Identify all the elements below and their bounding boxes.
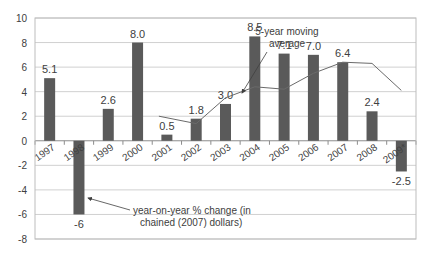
x-tick-label: 1997 <box>32 141 57 163</box>
chart: 1086420-2-4-6-8 5.1-62.68.00.51.83.08.57… <box>0 0 431 255</box>
annotation-arrow <box>88 198 130 210</box>
bar <box>220 104 231 141</box>
y-tick-label: 2 <box>21 111 27 122</box>
bar-value-label: 3.0 <box>218 89 233 101</box>
bar-value-label: -6 <box>74 218 84 230</box>
x-tick-label: 1999 <box>91 141 116 163</box>
bar-value-label: 1.8 <box>189 104 204 116</box>
y-tick-label: 6 <box>21 62 27 73</box>
y-tick-label: -4 <box>18 185 27 196</box>
bar <box>337 62 348 141</box>
x-tick-label: 2006 <box>296 141 321 163</box>
x-tick-label: 2008 <box>355 141 380 163</box>
bar <box>132 43 143 141</box>
bar-value-label: 5.1 <box>42 63 57 75</box>
bar <box>279 54 290 141</box>
bar <box>44 78 55 141</box>
x-tick-label: 2002 <box>179 141 204 163</box>
y-tick-label: 0 <box>21 136 27 147</box>
x-tick-label: 2005 <box>267 141 292 163</box>
bar-value-label: 2.4 <box>364 96 379 108</box>
bar-value-label: 7.0 <box>306 40 321 52</box>
bar <box>308 55 319 141</box>
y-tick-label: 4 <box>21 87 27 98</box>
bar-value-label: 6.4 <box>335 47 350 59</box>
bar-value-label: -2.5 <box>392 175 411 187</box>
y-tick-label: -8 <box>18 234 27 245</box>
bar-value-label: 0.5 <box>159 120 174 132</box>
x-tick-label: 2000 <box>120 141 145 163</box>
bar <box>191 119 202 141</box>
annotation-label: average <box>269 38 306 49</box>
x-axis-tick-labels: 1997199819992000200120022003200420052006… <box>32 141 408 165</box>
bar <box>103 109 114 141</box>
y-axis-tick-labels: 1086420-2-4-6-8 <box>16 13 28 245</box>
annotation-label: chained (2007) dollars) <box>140 217 242 228</box>
y-tick-label: -2 <box>18 160 27 171</box>
bar-value-label: 2.6 <box>101 94 116 106</box>
bar <box>367 111 378 140</box>
annotation-label: 5-year moving <box>255 26 318 37</box>
y-tick-label: 10 <box>16 13 28 24</box>
bar <box>161 135 172 141</box>
annotation-label: year-on-year % change (in <box>133 205 251 216</box>
bar-value-label: 8.0 <box>130 28 145 40</box>
y-tick-label: -6 <box>18 209 27 220</box>
x-tick-label: 2001 <box>149 141 174 163</box>
x-tick-label: 2007 <box>325 141 350 163</box>
x-tick-label: 2004 <box>237 141 262 163</box>
x-tick-label: 2003 <box>208 141 233 163</box>
y-tick-label: 8 <box>21 38 27 49</box>
bar-series <box>44 36 407 214</box>
